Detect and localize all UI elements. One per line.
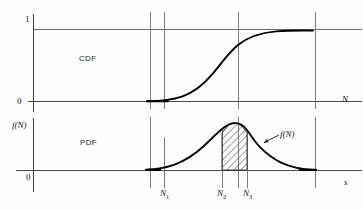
pdf-xtick-label-n1: N1 bbox=[160, 189, 169, 200]
cdf-x-axis-label: N bbox=[342, 95, 348, 104]
figure-cdf-pdf: 1 0 CDF N f(N) 0 PDF f(N) s N1 N2 N3 bbox=[0, 0, 363, 210]
pdf-y-axis-label: f(N) bbox=[12, 121, 27, 130]
pdf-xtick-n2-sub: 2 bbox=[223, 193, 226, 200]
figure-drawing bbox=[0, 0, 363, 210]
pdf-y-axis-zero-label: 0 bbox=[26, 173, 31, 182]
cdf-y-axis-zero-label: 0 bbox=[17, 97, 22, 106]
pdf-curve-label-arrow bbox=[264, 135, 279, 143]
pdf-xtick-n3-sub: 3 bbox=[249, 193, 252, 200]
pdf-xtick-label-n2: N2 bbox=[217, 189, 226, 200]
cdf-panel-label: CDF bbox=[79, 55, 96, 63]
pdf-curve-label: f(N) bbox=[280, 130, 295, 139]
cdf-curve bbox=[147, 30, 313, 101]
pdf-x-axis-label: s bbox=[344, 178, 348, 187]
pdf-panel-label: PDF bbox=[80, 139, 97, 147]
pdf-xtick-n1-sub: 1 bbox=[166, 193, 169, 200]
pdf-xtick-label-n3: N3 bbox=[243, 189, 252, 200]
pdf-panel-graphics bbox=[16, 117, 362, 192]
cdf-y-axis-top-label: 1 bbox=[25, 15, 30, 24]
